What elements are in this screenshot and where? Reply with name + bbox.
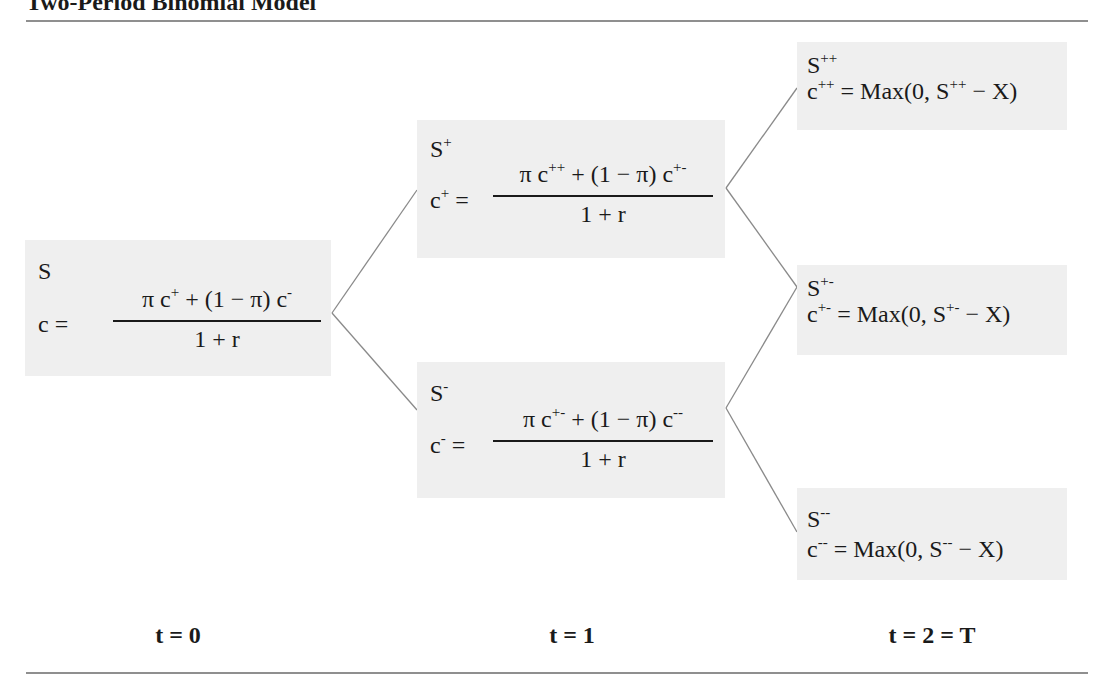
edge-up-updown (726, 188, 797, 287)
edge-down-downdown (726, 408, 797, 532)
edge-t0-up (332, 190, 417, 313)
edge-down-updown (726, 287, 797, 408)
node-t1-down: S- c- = π c+- + (1 − π) c-- 1 + r (417, 362, 725, 498)
fraction-bar (493, 440, 713, 442)
node-t1-up-call-formula: π c++ + (1 − π) c+- 1 + r (493, 160, 713, 228)
node-t2-updown-payoff: c+- = Max(0, S+- − X) (807, 301, 1010, 330)
fraction-bar (493, 195, 713, 197)
node-t1-down-call-lhs: c- = (430, 432, 465, 461)
node-t0-stock: S (38, 258, 51, 284)
node-t1-down-call-formula: π c+- + (1 − π) c-- 1 + r (493, 405, 713, 473)
node-t2-upup-payoff: c++ = Max(0, S++ − X) (807, 78, 1017, 107)
node-t2-downdown: S-- c-- = Max(0, S-- − X) (797, 488, 1067, 580)
time-label-t2: t = 2 = T (832, 622, 1032, 649)
node-t1-up-stock: S+ (430, 136, 452, 165)
time-label-t1: t = 1 (472, 622, 672, 649)
edge-t0-down (332, 313, 417, 410)
time-label-t0: t = 0 (78, 622, 278, 649)
node-t0: S c = π c+ + (1 − π) c- 1 + r (25, 240, 331, 376)
fraction-bar (113, 320, 321, 322)
node-t0-call-lhs: c = (38, 311, 68, 337)
node-t2-downdown-payoff: c-- = Max(0, S-- − X) (807, 536, 1003, 565)
edge-up-upup (726, 88, 797, 188)
node-t1-down-stock: S- (430, 380, 448, 409)
node-t1-up: S+ c+ = π c++ + (1 − π) c+- 1 + r (417, 120, 725, 258)
node-t1-up-call-lhs: c+ = (430, 187, 469, 216)
node-t2-updown: S+- c+- = Max(0, S+- − X) (797, 265, 1067, 355)
node-t2-upup: S++ c++ = Max(0, S++ − X) (797, 42, 1067, 130)
node-t2-downdown-stock: S-- (807, 506, 830, 535)
node-t0-call-formula: π c+ + (1 − π) c- 1 + r (113, 285, 321, 353)
